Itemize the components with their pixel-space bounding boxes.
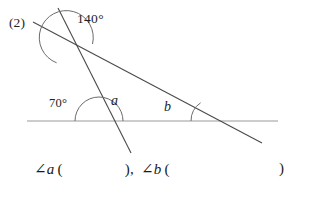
answer-separator-comma: ,: [130, 161, 134, 177]
angle-symbol-a: ∠: [34, 161, 47, 177]
answer-paren-open-a: (: [54, 161, 62, 177]
steep-transversal-line: [58, 8, 131, 153]
angle-b-label: b: [164, 100, 171, 114]
answer-blank-b: ∠b(: [141, 160, 232, 178]
angle-a-label: a: [111, 94, 118, 108]
answer-paren-open-b: (: [161, 161, 169, 177]
angle-70-label: 70°: [49, 97, 67, 110]
answer-line: ∠a(), ∠b( ): [34, 160, 296, 184]
geometry-figure: (2) 140° 70° a b ∠a(), ∠b( ): [0, 0, 316, 202]
problem-number-label: (2): [9, 16, 25, 30]
answer-paren-close-b: ): [279, 160, 284, 177]
angle-arc-b: [191, 103, 201, 121]
answer-blank-a: ∠a(),: [34, 160, 134, 178]
angle-symbol-b: ∠: [141, 161, 154, 177]
shallow-descending-line: [33, 22, 262, 143]
angle-140-label: 140°: [77, 12, 104, 26]
